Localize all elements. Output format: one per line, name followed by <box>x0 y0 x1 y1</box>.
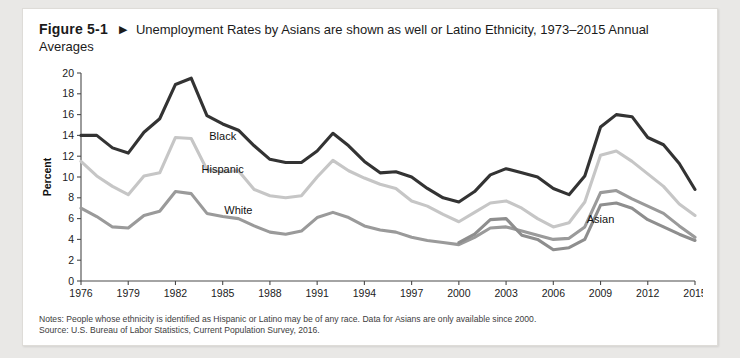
svg-text:10: 10 <box>62 171 74 183</box>
svg-text:18: 18 <box>62 87 74 99</box>
figure-number: Figure 5-1 <box>39 21 108 37</box>
figure-title: Unemployment Rates by Asians are shown a… <box>39 22 649 54</box>
figure-header: Figure 5-1▶Unemployment Rates by Asians … <box>39 21 703 55</box>
svg-text:20: 20 <box>62 67 74 79</box>
svg-text:2006: 2006 <box>542 287 566 299</box>
svg-text:1976: 1976 <box>69 287 93 299</box>
svg-text:1997: 1997 <box>400 287 424 299</box>
svg-text:1979: 1979 <box>117 287 141 299</box>
svg-text:2015: 2015 <box>683 287 703 299</box>
series-label-asian: Asian <box>587 213 615 225</box>
y-axis-title: Percent <box>41 157 53 196</box>
line-chart: 02468101214161820 1976197919821985198819… <box>39 63 703 311</box>
svg-text:1982: 1982 <box>164 287 188 299</box>
series-label-hispanic: Hispanic <box>202 163 245 175</box>
notes-line: Notes: People whose ethnicity is identif… <box>39 314 703 325</box>
svg-text:2: 2 <box>68 254 74 266</box>
svg-text:2009: 2009 <box>589 287 613 299</box>
svg-text:1985: 1985 <box>211 287 235 299</box>
svg-text:16: 16 <box>62 108 74 120</box>
figure-panel: Figure 5-1▶Unemployment Rates by Asians … <box>22 8 718 346</box>
svg-text:6: 6 <box>68 212 74 224</box>
x-axis: 1976197919821985198819911994199720002003… <box>69 281 703 299</box>
svg-text:1991: 1991 <box>305 287 329 299</box>
svg-text:2000: 2000 <box>447 287 471 299</box>
svg-text:2012: 2012 <box>636 287 660 299</box>
chart-plot-area: 02468101214161820 1976197919821985198819… <box>39 63 703 311</box>
source-line: Source: U.S. Bureau of Labor Statistics,… <box>39 325 703 336</box>
svg-text:0: 0 <box>68 275 74 287</box>
svg-text:1988: 1988 <box>258 287 282 299</box>
svg-text:2003: 2003 <box>494 287 518 299</box>
triangle-icon: ▶ <box>119 21 127 38</box>
figure-notes: Notes: People whose ethnicity is identif… <box>39 314 703 337</box>
y-axis: 02468101214161820 <box>62 67 81 287</box>
svg-text:4: 4 <box>68 233 74 245</box>
svg-text:1994: 1994 <box>353 287 377 299</box>
svg-text:8: 8 <box>68 191 74 203</box>
svg-text:12: 12 <box>62 150 74 162</box>
series-label-white: White <box>224 204 252 216</box>
series-label-black: Black <box>209 130 236 142</box>
svg-text:14: 14 <box>62 129 74 141</box>
